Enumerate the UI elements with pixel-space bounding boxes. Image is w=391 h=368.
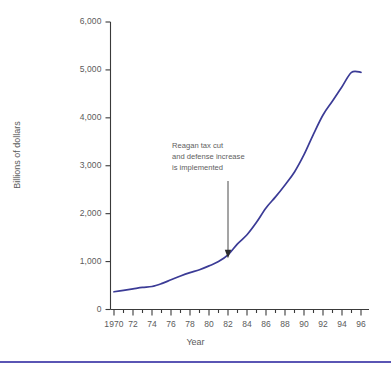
annotation-line: Reagan tax cut xyxy=(172,141,245,152)
y-axis-title: Billions of dollars xyxy=(12,100,22,210)
y-axis-tick-label: 3,000 xyxy=(42,160,102,170)
y-axis-tick-label: 2,000 xyxy=(42,208,102,218)
reagan-annotation: Reagan tax cutand defense increaseis imp… xyxy=(172,141,245,173)
bottom-divider-rule xyxy=(0,361,391,363)
y-axis-tick-label: 0 xyxy=(42,304,102,314)
chart-figure: Billions of dollars Year Reagan tax cuta… xyxy=(0,0,391,368)
data-series-line xyxy=(114,71,361,292)
y-axis-tick-label: 4,000 xyxy=(42,112,102,122)
x-axis-title: Year xyxy=(0,337,391,347)
y-axis-tick-label: 6,000 xyxy=(42,16,102,26)
annotation-line: is implemented xyxy=(172,163,245,174)
y-axis-tick-label: 5,000 xyxy=(42,64,102,74)
x-axis-tick-label: 96 xyxy=(341,319,381,329)
y-axis-tick-label: 1,000 xyxy=(42,256,102,266)
annotation-line: and defense increase xyxy=(172,152,245,163)
